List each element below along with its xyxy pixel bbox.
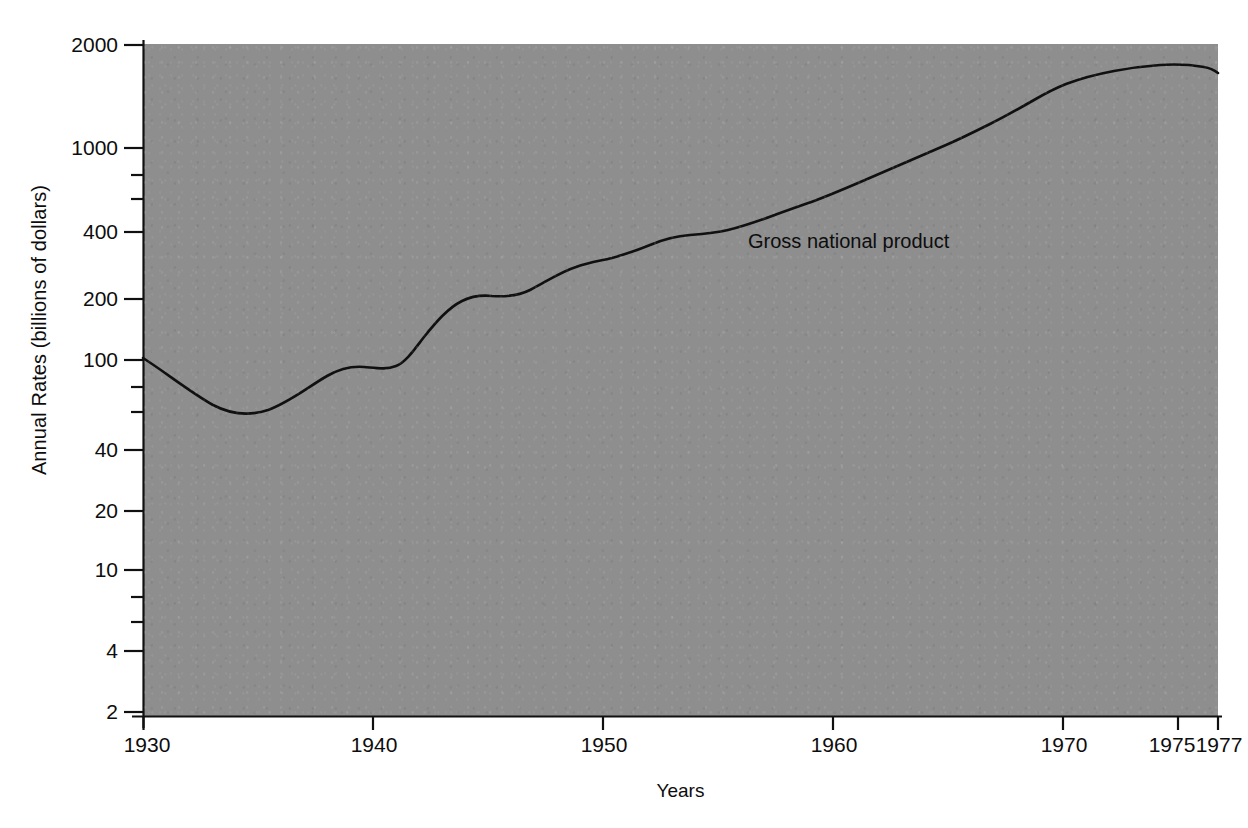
x-ticks xyxy=(144,716,1219,730)
y-major-ticks xyxy=(124,45,143,712)
plot-area xyxy=(0,0,1248,828)
x-tick-1950: 1950 xyxy=(581,734,628,755)
x-tick-1960: 1960 xyxy=(811,734,858,755)
plot-background xyxy=(143,44,1218,716)
x-tick-1940: 1940 xyxy=(351,734,398,755)
x-tick-1975: 1975 xyxy=(1149,734,1196,755)
y-tick-2: 2 xyxy=(14,701,118,722)
gnp-log-chart: 2000 1000 400 200 100 40 20 10 4 2 1930 … xyxy=(0,0,1248,828)
x-tick-1930: 1930 xyxy=(124,734,171,755)
series-annotation-label: Gross national product xyxy=(748,230,949,252)
y-minor-ticks xyxy=(131,175,143,622)
x-axis-title: Years xyxy=(143,780,1218,802)
y-axis-title: Annual Rates (billions of dollars) xyxy=(22,0,56,680)
x-tick-1977: 1977 xyxy=(1196,734,1243,755)
x-tick-1970: 1970 xyxy=(1041,734,1088,755)
